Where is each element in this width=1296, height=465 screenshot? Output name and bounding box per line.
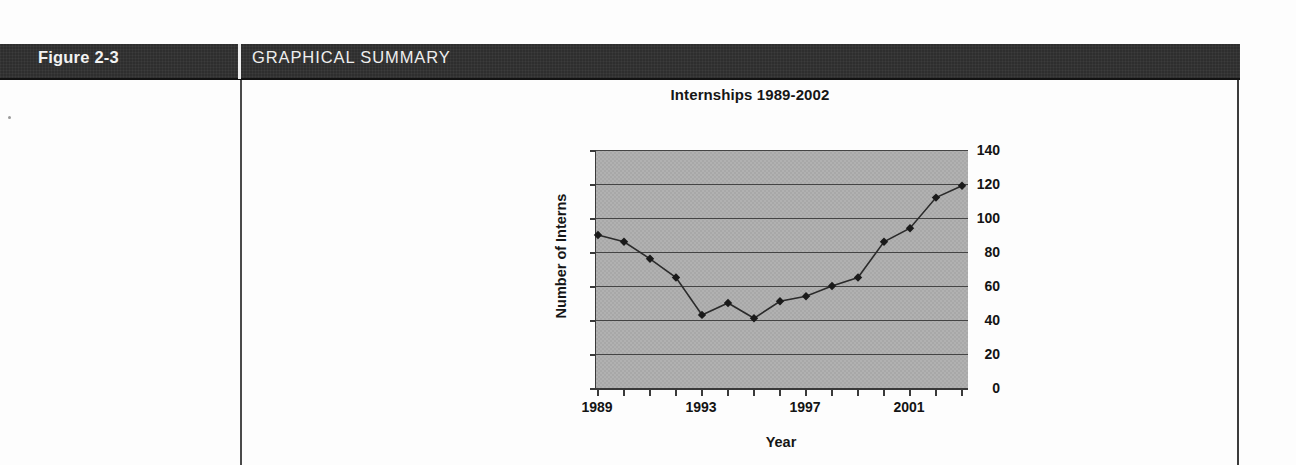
x-axis-tick-mark (649, 388, 651, 396)
plot-area (595, 150, 968, 388)
data-series-line (596, 150, 968, 388)
x-axis-tick-mark (805, 388, 807, 396)
data-point-marker (594, 231, 602, 239)
x-axis-tick-mark (961, 388, 963, 396)
x-axis-tick-mark (727, 388, 729, 396)
x-axis-tick-mark (909, 388, 911, 396)
data-point-marker (802, 292, 810, 300)
data-point-marker (828, 282, 836, 290)
chart-container: Internships 1989-2002 Number of Interns … (500, 86, 1000, 465)
x-axis-tick-mark (701, 388, 703, 396)
x-axis-tick-mark (857, 388, 859, 396)
data-point-marker (958, 182, 966, 190)
page-canvas: Figure 2-3 GRAPHICAL SUMMARY Internships… (0, 0, 1296, 465)
x-axis-title: Year (595, 434, 967, 450)
data-point-marker (724, 299, 732, 307)
x-axis-tick-mark (779, 388, 781, 396)
data-point-marker (750, 314, 758, 322)
vertical-rule-left (240, 80, 242, 465)
vertical-rule-right (1237, 80, 1239, 465)
x-axis-tick-mark (597, 388, 599, 396)
section-title: GRAPHICAL SUMMARY (252, 48, 451, 67)
x-axis-tick-mark (935, 388, 937, 396)
header-band-separator (238, 44, 241, 79)
x-axis-tick-label: 1989 (581, 399, 612, 415)
figure-number-label: Figure 2-3 (38, 48, 119, 67)
scan-artifact-dot (8, 116, 11, 119)
x-axis-tick-mark (623, 388, 625, 396)
x-axis-tick-mark (883, 388, 885, 396)
x-axis-tick-label: 1997 (789, 399, 820, 415)
x-axis-tick-label: 2001 (893, 399, 924, 415)
x-axis-tick-label: 1993 (685, 399, 716, 415)
x-axis-tick-mark (675, 388, 677, 396)
x-axis-line (595, 388, 968, 390)
x-axis-tick-mark (831, 388, 833, 396)
y-axis-title: Number of Interns (553, 156, 569, 356)
data-point-marker (620, 238, 628, 246)
figure-header-band (0, 44, 1240, 79)
x-axis-tick-mark (753, 388, 755, 396)
chart-title: Internships 1989-2002 (500, 86, 1000, 103)
data-point-marker (776, 297, 784, 305)
